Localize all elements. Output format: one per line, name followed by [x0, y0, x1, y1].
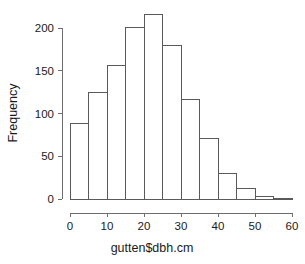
histogram-bar — [200, 138, 219, 199]
y-tick-label: 50 — [41, 150, 54, 162]
y-axis-tick-labels: 050100150200 — [35, 22, 54, 205]
histogram-bar — [126, 27, 145, 199]
histogram-plot: 050100150200 0102030405060 gutten$dbh.cm… — [0, 0, 305, 264]
x-tick-label: 30 — [175, 220, 188, 232]
x-tick-label: 0 — [67, 220, 73, 232]
x-axis-title: gutten$dbh.cm — [111, 241, 194, 255]
histogram-bar — [218, 173, 237, 199]
histogram-figure: 050100150200 0102030405060 gutten$dbh.cm… — [0, 0, 305, 264]
histogram-bar — [163, 46, 182, 199]
histogram-bar — [89, 93, 108, 199]
y-tick-label: 150 — [35, 65, 54, 77]
y-axis-ticks — [58, 28, 62, 199]
histogram-bar — [144, 14, 163, 199]
x-tick-label: 10 — [101, 220, 114, 232]
histogram-bar — [181, 100, 200, 199]
histogram-bar — [274, 198, 293, 199]
x-axis-ticks — [70, 213, 292, 217]
histogram-bar — [255, 196, 274, 199]
y-tick-label: 100 — [35, 108, 54, 120]
y-axis-title: Frequency — [6, 83, 20, 143]
y-tick-label: 200 — [35, 22, 54, 34]
x-tick-label: 60 — [286, 220, 299, 232]
histogram-bars — [70, 14, 292, 199]
histogram-bar — [107, 66, 126, 199]
x-tick-label: 20 — [138, 220, 151, 232]
x-tick-label: 40 — [212, 220, 225, 232]
y-tick-label: 0 — [48, 193, 54, 205]
histogram-bar — [70, 124, 89, 199]
x-tick-label: 50 — [249, 220, 262, 232]
x-axis-tick-labels: 0102030405060 — [67, 220, 299, 232]
histogram-bar — [237, 189, 256, 199]
